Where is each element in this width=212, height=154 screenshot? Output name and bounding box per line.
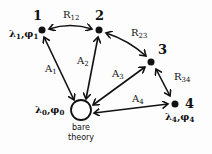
edge-a2: [86, 37, 98, 99]
node-3: [148, 59, 155, 66]
node-2: [96, 27, 103, 34]
node-1-params: λ1,φ1: [9, 28, 38, 41]
node-3-label: 3: [158, 42, 167, 57]
theory-space-diagram: 1 2 3 4 λ1,φ1 λ4,φ4 λ0,φ0 bare theory R1…: [0, 0, 212, 154]
diagram-canvas: 1 2 3 4 λ1,φ1 λ4,φ4 λ0,φ0 bare theory R1…: [0, 0, 212, 154]
node-4: [172, 101, 179, 108]
edge-a1-label: A1: [44, 63, 57, 76]
edge-a4-label: A4: [131, 93, 144, 106]
theory-label: theory: [68, 133, 94, 142]
edge-a2-label: A2: [76, 55, 89, 68]
node-1-label: 1: [33, 8, 42, 23]
edge-r23-label: R23: [131, 27, 147, 40]
edge-a4: [94, 104, 168, 113]
node-0-params: λ0,φ0: [35, 104, 64, 117]
edge-r12-label: R12: [63, 9, 79, 22]
node-4-params: λ4,φ4: [165, 111, 194, 124]
bare-label: bare: [72, 123, 90, 132]
edge-r34: [156, 69, 170, 96]
edge-r12: [49, 26, 92, 30]
edge-r34-label: R34: [174, 71, 191, 84]
node-2-label: 2: [95, 8, 104, 23]
node-1: [39, 27, 46, 34]
edge-a3-label: A3: [111, 68, 124, 81]
node-bare-theory: [71, 100, 91, 120]
node-4-label: 4: [185, 96, 194, 111]
